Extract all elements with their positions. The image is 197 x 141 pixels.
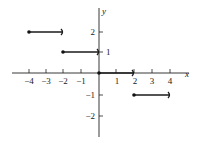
svg-text:4: 4 (168, 76, 173, 86)
x-tick-labels: −4 −3 −2 −1 1 2 3 4 (24, 76, 173, 86)
svg-text:3: 3 (150, 76, 155, 86)
step-segment-2 (61, 49, 99, 55)
y-axis-label: y (101, 6, 106, 16)
step-function-chart: −4 −3 −2 −1 1 2 3 4 2 1 −1 −2 x y (0, 0, 197, 141)
svg-text:2: 2 (133, 76, 138, 86)
svg-text:1: 1 (115, 76, 120, 86)
closed-endpoint (97, 71, 101, 75)
svg-text:−3: −3 (41, 76, 51, 86)
closed-endpoint (27, 30, 31, 34)
svg-text:−2: −2 (58, 76, 68, 86)
closed-endpoint (61, 50, 65, 54)
svg-text:−2: −2 (85, 111, 95, 121)
svg-text:−4: −4 (24, 76, 34, 86)
svg-text:1: 1 (106, 47, 111, 57)
svg-text:−1: −1 (85, 90, 95, 100)
step-segment-1 (27, 29, 63, 35)
closed-endpoint (132, 93, 136, 97)
svg-text:−1: −1 (76, 76, 86, 86)
svg-text:2: 2 (91, 27, 96, 37)
step-segment-4 (132, 92, 170, 98)
x-axis-label: x (184, 69, 189, 79)
